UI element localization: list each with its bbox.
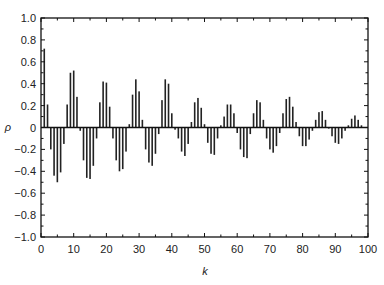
x-tick-label: 0 <box>38 243 44 255</box>
bar <box>155 128 157 154</box>
bar <box>93 128 95 166</box>
x-tick-label: 70 <box>264 243 276 255</box>
bar <box>266 128 268 139</box>
bar <box>338 128 340 144</box>
bar <box>325 120 327 128</box>
bar <box>60 128 62 173</box>
bar <box>295 122 297 127</box>
bar <box>207 128 209 143</box>
bar <box>246 128 248 159</box>
bar <box>263 120 265 128</box>
bar <box>63 128 65 144</box>
bar <box>289 97 291 128</box>
bar <box>109 107 111 128</box>
bar <box>354 115 356 127</box>
bar <box>279 128 281 133</box>
bar <box>89 128 91 179</box>
bar <box>308 128 310 140</box>
bar <box>197 98 199 128</box>
bar <box>138 91 140 127</box>
bar <box>315 120 317 128</box>
bar <box>259 102 261 127</box>
bar <box>321 111 323 127</box>
bar <box>119 128 121 172</box>
bar <box>194 102 196 127</box>
bar <box>43 49 45 128</box>
y-tick-label: 0.8 <box>21 34 36 46</box>
x-tick-label: 20 <box>100 243 112 255</box>
bar <box>164 79 166 127</box>
bar <box>102 82 104 128</box>
y-tick-labels: 1.00.80.60.40.20−0.2−0.4−0.6−0.8−1.0 <box>14 12 36 243</box>
x-tick-label: 30 <box>133 243 145 255</box>
bar <box>184 128 186 156</box>
bar <box>305 128 307 147</box>
bar <box>230 105 232 128</box>
bar <box>53 128 55 176</box>
bar <box>96 128 98 139</box>
plot-frame <box>41 18 368 237</box>
bar <box>240 128 242 150</box>
bar <box>269 128 271 150</box>
bar <box>142 120 144 128</box>
bar <box>214 128 216 155</box>
y-tick-label: 0.6 <box>21 56 36 68</box>
x-tick-label: 90 <box>329 243 341 255</box>
bar <box>236 128 238 133</box>
bar <box>357 120 359 128</box>
bar <box>50 128 52 150</box>
x-tick-label: 100 <box>359 243 377 255</box>
bar <box>83 128 85 161</box>
bar <box>249 128 251 135</box>
x-tick-label: 50 <box>198 243 210 255</box>
bar <box>181 128 183 152</box>
y-tick-label: 1.0 <box>21 12 36 24</box>
bar <box>115 128 117 161</box>
bar <box>178 128 180 139</box>
y-tick-label: −1.0 <box>14 231 36 243</box>
bar <box>151 128 153 166</box>
y-tick-label: −0.4 <box>14 165 36 177</box>
y-tick-label: 0 <box>30 122 36 134</box>
x-axis-label: k <box>202 265 208 277</box>
bar <box>253 113 255 127</box>
x-tick-label: 80 <box>296 243 308 255</box>
bar <box>341 128 343 139</box>
y-tick-label: 0.4 <box>21 78 36 90</box>
bar <box>70 73 72 128</box>
bar <box>318 112 320 127</box>
bar <box>302 128 304 147</box>
bar <box>285 99 287 127</box>
bar <box>66 105 68 128</box>
bar <box>73 71 75 128</box>
bar <box>99 102 101 127</box>
bar <box>292 107 294 128</box>
y-tick-label: 0.2 <box>21 100 36 112</box>
y-tick-label: −0.6 <box>14 187 36 199</box>
bar <box>227 105 229 128</box>
bar <box>57 128 59 183</box>
bar <box>276 128 278 147</box>
x-tick-label: 40 <box>166 243 178 255</box>
bar <box>187 128 189 144</box>
bar <box>243 128 245 158</box>
bar <box>47 105 49 128</box>
autocorrelation-chart: 0102030405060708090100 1.00.80.60.40.20−… <box>0 0 384 285</box>
bar <box>171 113 173 127</box>
y-tick-label: −0.2 <box>14 143 36 155</box>
bar <box>200 108 202 128</box>
bar <box>299 128 301 137</box>
bar <box>282 113 284 127</box>
bar <box>256 100 258 127</box>
bar <box>168 84 170 128</box>
bar <box>272 128 274 153</box>
bar <box>223 117 225 128</box>
bar <box>331 128 333 137</box>
x-tick-label: 10 <box>68 243 80 255</box>
x-tick-labels: 0102030405060708090100 <box>38 243 377 255</box>
bar <box>335 128 337 143</box>
bar <box>148 128 150 163</box>
bar <box>161 100 163 127</box>
bar <box>145 128 147 150</box>
bar <box>86 128 88 178</box>
